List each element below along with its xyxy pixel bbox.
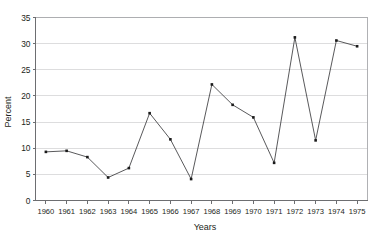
x-tick-label: 1974 — [328, 207, 345, 216]
y-axis-title: Percent — [3, 96, 13, 128]
data-point — [128, 167, 131, 170]
line-chart: 05101520253035 1960196119621963196419651… — [0, 0, 383, 234]
data-point — [231, 104, 234, 107]
x-tick-label: 1961 — [58, 207, 75, 216]
data-point — [356, 45, 359, 48]
x-tick-label: 1960 — [37, 207, 54, 216]
x-tick-label: 1969 — [224, 207, 241, 216]
y-tick-label: 35 — [21, 13, 31, 23]
data-point — [45, 151, 48, 154]
chart-canvas: 05101520253035 1960196119621963196419651… — [0, 0, 383, 234]
data-point — [211, 83, 214, 86]
x-tick-label: 1963 — [100, 207, 117, 216]
x-tick-label: 1971 — [266, 207, 283, 216]
y-tick-label: 5 — [26, 169, 31, 179]
chart-background — [0, 0, 383, 234]
data-point — [65, 150, 68, 153]
x-axis-title: Years — [194, 222, 217, 232]
data-point — [273, 162, 276, 165]
y-tick-label: 20 — [21, 91, 31, 101]
x-tick-label: 1968 — [203, 207, 220, 216]
y-tick-label: 0 — [26, 196, 31, 206]
x-tick-label: 1972 — [286, 207, 303, 216]
y-tick-label: 10 — [21, 143, 31, 153]
data-point — [314, 139, 317, 142]
x-tick-label: 1966 — [162, 207, 179, 216]
x-tick-label: 1964 — [120, 207, 137, 216]
data-point — [107, 176, 110, 179]
data-point — [190, 178, 193, 181]
x-tick-label: 1965 — [141, 207, 158, 216]
data-point — [148, 112, 151, 115]
x-tick-label: 1975 — [349, 207, 366, 216]
data-point — [335, 39, 338, 42]
y-tick-label: 15 — [21, 117, 31, 127]
data-point — [86, 156, 89, 159]
y-tick-label: 30 — [21, 39, 31, 49]
data-point — [252, 116, 255, 119]
data-point — [294, 36, 297, 39]
x-tick-label: 1962 — [79, 207, 96, 216]
x-tick-label: 1967 — [183, 207, 200, 216]
data-point — [169, 138, 172, 141]
x-tick-label: 1970 — [245, 207, 262, 216]
y-tick-label: 25 — [21, 65, 31, 75]
x-tick-label: 1973 — [307, 207, 324, 216]
